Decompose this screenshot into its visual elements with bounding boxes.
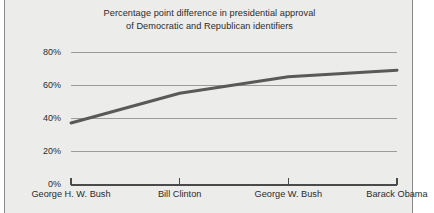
x-axis-tick <box>179 178 181 185</box>
x-axis-tick-label: Barack Obama <box>366 189 427 199</box>
x-axis-tick-label: George H. W. Bush <box>31 189 110 199</box>
y-axis-tick-label: 60% <box>43 80 61 90</box>
chart-title-line-2: of Democratic and Republican identifiers <box>5 20 414 33</box>
x-axis-line <box>71 184 397 186</box>
y-axis-tick-label: 40% <box>43 113 61 123</box>
series-polyline <box>71 70 397 123</box>
x-axis-tick <box>396 178 398 185</box>
chart-title: Percentage point difference in president… <box>5 7 414 32</box>
x-axis-tick-label: George W. Bush <box>255 189 322 199</box>
chart-title-line-1: Percentage point difference in president… <box>5 7 414 20</box>
series-line-chart <box>67 46 397 186</box>
y-axis-tick-label: 20% <box>43 146 61 156</box>
x-axis-tick <box>288 178 290 185</box>
plot-area: 80%60%40%20%0% George H. W. BushBill Cli… <box>67 46 397 186</box>
x-axis-tick-label: Bill Clinton <box>158 189 201 199</box>
x-axis-tick <box>70 178 72 185</box>
chart-figure: Percentage point difference in president… <box>0 0 434 213</box>
chart-panel: Percentage point difference in president… <box>4 0 413 213</box>
y-axis-tick-label: 80% <box>43 47 61 57</box>
y-axis-tick-label: 0% <box>48 179 61 189</box>
